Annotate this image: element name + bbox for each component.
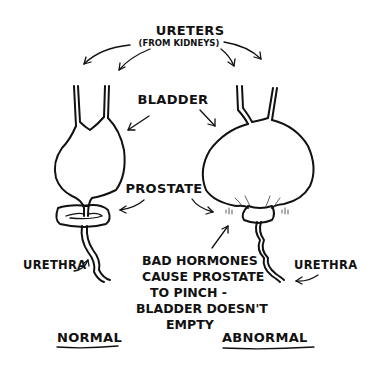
normal-underline — [57, 346, 118, 348]
normal-urethra — [82, 226, 110, 282]
ureters-sublabel: (FROM KIDNEYS) — [139, 38, 220, 48]
urethra-arrow-right — [296, 275, 318, 284]
note-arrow — [212, 226, 228, 248]
explanation-note: BAD HORMONES CAUSE PROSTATE TO PINCH - B… — [136, 253, 268, 332]
note-line-2: CAUSE PROSTATE — [142, 269, 264, 284]
abnormal-bladder — [203, 86, 314, 208]
urethra-label-right: URETHRA — [294, 258, 357, 272]
prostate-arrows — [120, 199, 213, 214]
note-line-4: BLADDER DOESN'T — [136, 301, 268, 316]
note-line-3: TO PINCH - — [150, 285, 227, 300]
abnormal-label: ABNORMAL — [222, 330, 308, 345]
bladder-label: BLADDER — [138, 92, 209, 107]
note-line-5: EMPTY — [166, 317, 215, 332]
bladder-arrows — [128, 110, 215, 130]
prostate-label: PROSTATE — [125, 181, 202, 196]
note-line-1: BAD HORMONES — [142, 253, 258, 268]
abnormal-underline — [223, 347, 314, 349]
normal-bladder — [55, 86, 125, 216]
diagram-canvas: URETERS (FROM KIDNEYS) BLADDER P — [0, 0, 375, 371]
ureters-label: URETERS — [156, 23, 225, 38]
abnormal-prostate — [226, 206, 288, 223]
normal-label: NORMAL — [57, 330, 122, 345]
